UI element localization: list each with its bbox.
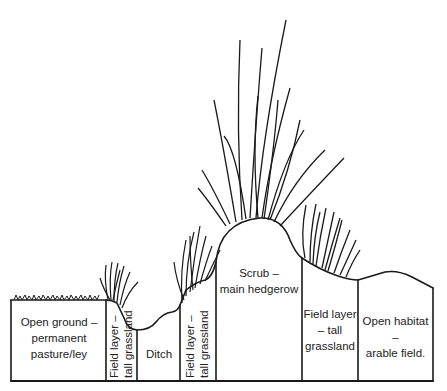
zone-ditch-label: Ditch — [138, 346, 180, 362]
label-line: arable field. — [358, 345, 433, 361]
scrub-grass-icon — [198, 20, 344, 226]
label-line: grassland — [302, 338, 358, 354]
label-line: Ditch — [138, 346, 180, 362]
zone-scrub-label: Scrub – main hedgerow — [216, 265, 302, 297]
label-line: tall grassland — [197, 310, 211, 378]
label-line: Field layer — [302, 306, 358, 322]
tall-grass-right-icon — [303, 204, 360, 277]
label-line: Field layer – — [107, 310, 121, 378]
label-line: permanent — [14, 330, 104, 346]
zone-open-habitat-label: Open habitat – arable field. — [358, 313, 433, 361]
zone-field-layer-right-label: Field layer – tall grassland — [302, 306, 358, 354]
tall-grass-mid-icon — [174, 226, 220, 303]
label-line: tall grassland — [121, 310, 135, 378]
label-line: main hedgerow — [216, 281, 302, 297]
zone-open-ground-label: Open ground – permanent pasture/ley — [14, 314, 104, 362]
zone-field-layer-mid-label: Field layer – tall grassland — [183, 310, 211, 378]
zone-field-layer-left-label: Field layer – tall grassland — [107, 310, 135, 378]
label-line: Open habitat – — [358, 313, 433, 345]
label-line: – tall — [302, 322, 358, 338]
label-line: Field layer – — [183, 310, 197, 378]
label-line: Scrub – — [216, 265, 302, 281]
label-line: Open ground – — [14, 314, 104, 330]
label-line: pasture/ley — [14, 346, 104, 362]
